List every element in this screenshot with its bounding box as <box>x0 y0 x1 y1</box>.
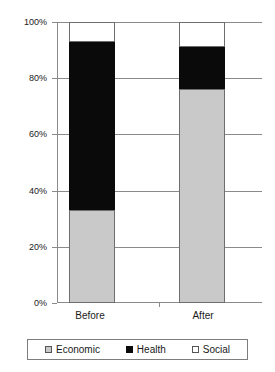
bar-segment-after-economic[interactable] <box>179 89 225 303</box>
x-tick-label-after: After <box>165 310 241 321</box>
x-tick-mark-middle <box>159 303 160 307</box>
y-tick-label-0: 0% <box>0 299 47 308</box>
legend-swatch-health-icon <box>126 346 133 353</box>
bar-segment-before-health[interactable] <box>69 42 115 211</box>
bar-segment-before-economic[interactable] <box>69 210 115 303</box>
y-tick-label-40: 40% <box>0 187 47 196</box>
bar-before[interactable] <box>69 22 115 303</box>
stacked-bar-chart: 100% 80% 60% 40% 20% 0% <box>0 0 275 372</box>
plot-area <box>57 22 262 303</box>
bar-segment-before-social[interactable] <box>69 22 115 42</box>
legend-item-social[interactable]: Social <box>192 345 230 355</box>
legend-swatch-social-icon <box>192 346 199 353</box>
y-tick-label-20: 20% <box>0 243 47 252</box>
y-tick-mark-0 <box>52 303 57 304</box>
plot-wrapper: 100% 80% 60% 40% 20% 0% <box>0 0 275 330</box>
legend-swatch-economic-icon <box>45 346 52 353</box>
y-tick-label-80: 80% <box>0 74 47 83</box>
legend-item-economic[interactable]: Economic <box>45 345 100 355</box>
y-tick-label-100: 100% <box>0 18 47 27</box>
bar-segment-after-health[interactable] <box>179 47 225 89</box>
legend-item-health[interactable]: Health <box>126 345 166 355</box>
chart-legend: Economic Health Social <box>27 339 248 360</box>
legend-label-social: Social <box>203 345 230 355</box>
y-axis-labels: 100% 80% 60% 40% 20% 0% <box>0 0 53 330</box>
bar-after[interactable] <box>179 22 225 303</box>
y-tick-label-60: 60% <box>0 130 47 139</box>
legend-label-economic: Economic <box>56 345 100 355</box>
bar-segment-after-social[interactable] <box>179 22 225 47</box>
legend-label-health: Health <box>137 345 166 355</box>
x-tick-label-before: Before <box>52 310 128 321</box>
